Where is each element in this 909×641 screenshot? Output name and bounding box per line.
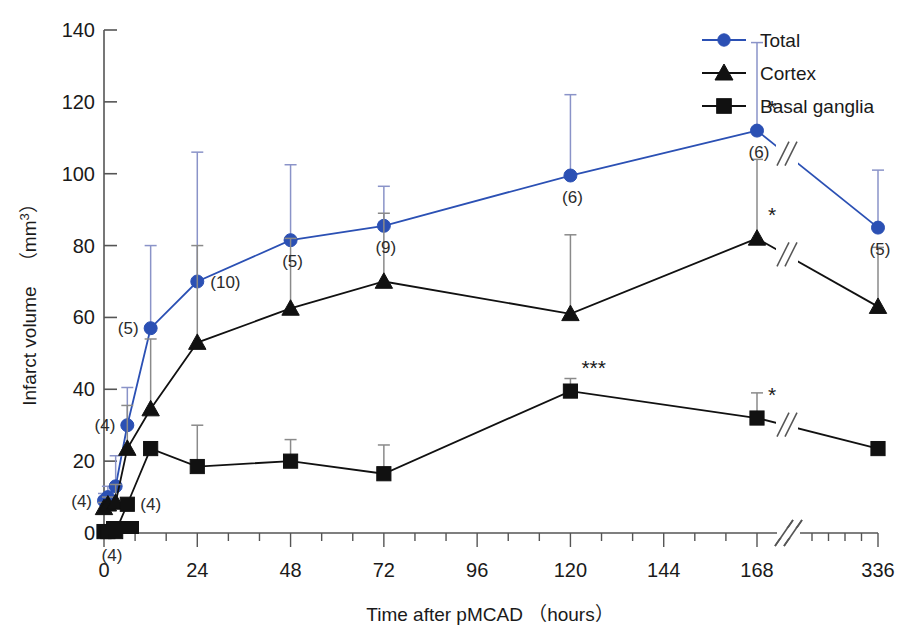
data-point-marker xyxy=(718,34,730,46)
sample-size-label: (4) xyxy=(71,492,92,511)
series-line-after-break xyxy=(757,238,878,306)
y-tick-label: 140 xyxy=(62,19,95,41)
data-point-marker xyxy=(869,298,886,313)
x-tick-label: 144 xyxy=(647,559,680,581)
legend-item-cortex[interactable]: Cortex xyxy=(702,63,816,84)
data-point-marker xyxy=(717,99,732,114)
data-point-marker xyxy=(283,454,297,468)
x-tick-label: 168 xyxy=(740,559,773,581)
legend-item-total[interactable]: Total xyxy=(702,30,800,51)
y-tick-label: 100 xyxy=(62,163,95,185)
data-point-marker xyxy=(120,497,134,511)
data-point-marker xyxy=(142,400,159,415)
series-line xyxy=(104,131,757,501)
sample-size-label: (4) xyxy=(140,495,161,514)
data-point-marker xyxy=(119,440,136,455)
sample-size-label: (10) xyxy=(210,273,240,292)
significance-marker: * xyxy=(768,203,776,226)
data-point-marker xyxy=(375,273,392,288)
y-tick-label: 60 xyxy=(73,306,95,328)
sample-size-label: (5) xyxy=(282,252,303,271)
y-tick-label: 40 xyxy=(73,378,95,400)
y-axis-tick-labels: 020406080100120140 xyxy=(62,19,95,544)
x-tick-label: 96 xyxy=(466,559,488,581)
y-axis-title: Infarct volume （mm3） xyxy=(17,194,40,406)
y-axis-unit-superscript: 3 xyxy=(17,213,32,220)
data-point-marker xyxy=(189,334,206,349)
series-break-marks xyxy=(776,142,798,438)
data-point-marker xyxy=(871,441,885,455)
y-tick-label: 20 xyxy=(73,450,95,472)
sample-size-label: (9) xyxy=(375,238,396,257)
series-basal-ganglia xyxy=(97,379,885,539)
data-point-marker xyxy=(715,64,733,80)
x-tick-label: 72 xyxy=(373,559,395,581)
basal-ganglia-origin-cluster xyxy=(106,521,139,534)
x-axis-ticks xyxy=(104,533,878,547)
y-tick-label: 80 xyxy=(73,235,95,257)
data-point-marker xyxy=(190,459,204,473)
data-point-marker xyxy=(377,467,391,481)
legend-label: Basal ganglia xyxy=(760,96,875,117)
legend-item-basal-ganglia[interactable]: Basal ganglia xyxy=(702,96,875,117)
data-point-marker xyxy=(751,124,764,137)
sample-size-label: (5) xyxy=(870,240,891,259)
svg-text:Infarct volume （mm3）: Infarct volume （mm3） xyxy=(17,194,40,406)
sample-size-label: (4) xyxy=(95,416,116,435)
data-point-marker xyxy=(144,322,157,335)
x-tick-label: 48 xyxy=(279,559,301,581)
legend-label: Total xyxy=(760,30,800,51)
chart-canvas: 020406080100120140 024487296120144168336… xyxy=(0,0,909,641)
sample-size-label: (5) xyxy=(118,319,139,338)
y-tick-label: 120 xyxy=(62,91,95,113)
x-tick-label: 336 xyxy=(861,559,894,581)
legend-label: Cortex xyxy=(760,63,816,84)
x-tick-label: 24 xyxy=(186,559,208,581)
significance-marker: * xyxy=(768,383,776,406)
annotations-layer: (4)(4)(5)(10)(5)(9)(6)(6)(5)**(4)(4)**** xyxy=(71,96,890,565)
x-axis-title: Time after pMCAD （hours） xyxy=(366,604,613,625)
data-point-marker xyxy=(563,384,577,398)
y-axis-unit-suffix: ） xyxy=(19,194,40,213)
data-point-marker xyxy=(872,221,885,234)
data-point-marker xyxy=(144,441,158,455)
chart-legend: TotalCortexBasal ganglia xyxy=(702,30,875,117)
data-point-marker xyxy=(564,169,577,182)
x-axis-tick-labels: 024487296120144168336 xyxy=(98,559,894,581)
y-tick-label: 0 xyxy=(84,522,95,544)
x-tick-label: 120 xyxy=(554,559,587,581)
infarct-volume-chart: 020406080100120140 024487296120144168336… xyxy=(0,0,909,641)
sample-size-label: (6) xyxy=(749,143,770,162)
x-axis-break-icon xyxy=(775,520,802,546)
y-axis-unit-prefix: （mm xyxy=(19,220,40,271)
sample-size-label: (4) xyxy=(102,546,123,565)
significance-marker: *** xyxy=(581,356,606,379)
data-point-marker xyxy=(750,411,764,425)
y-axis-title-text: Infarct volume xyxy=(19,286,40,405)
sample-size-label: (6) xyxy=(562,188,583,207)
data-point-marker xyxy=(748,230,765,245)
series-line-after-break xyxy=(757,418,878,449)
